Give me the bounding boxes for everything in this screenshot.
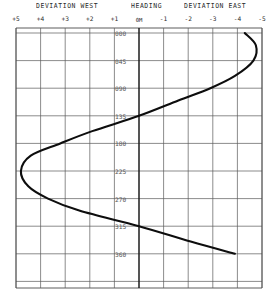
vertical-gridlines [16,28,262,288]
deviation-card-chart: DEVIATION WEST HEADING DEVIATION EAST +5… [0,0,267,295]
plot-area [0,0,267,295]
